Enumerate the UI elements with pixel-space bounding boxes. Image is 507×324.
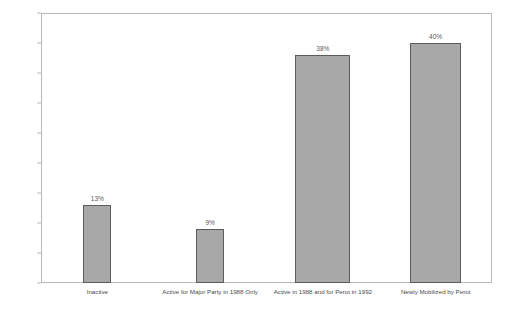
bar-value-label: 38%	[293, 46, 353, 53]
bar	[410, 43, 461, 283]
x-axis-category-label: Inactive	[44, 288, 151, 297]
bar-value-label: 9%	[180, 220, 240, 227]
y-axis: 0%5%10%15%20%25%30%35%40%45%	[0, 0, 41, 324]
bar-value-label: 40%	[406, 34, 466, 41]
bar	[83, 205, 111, 283]
x-axis-category-label: Active in 1988 and for Perot in 1992	[270, 288, 377, 297]
x-axis-category-label: Newly Mobilized by Perot	[382, 288, 489, 297]
bar	[196, 229, 224, 283]
bar	[295, 55, 350, 283]
bar-value-label: 13%	[67, 196, 127, 203]
x-axis-category-label: Active for Major Party in 1988 Only	[157, 288, 264, 297]
bar-chart: 0%5%10%15%20%25%30%35%40%45% 13%Inactive…	[0, 0, 507, 324]
